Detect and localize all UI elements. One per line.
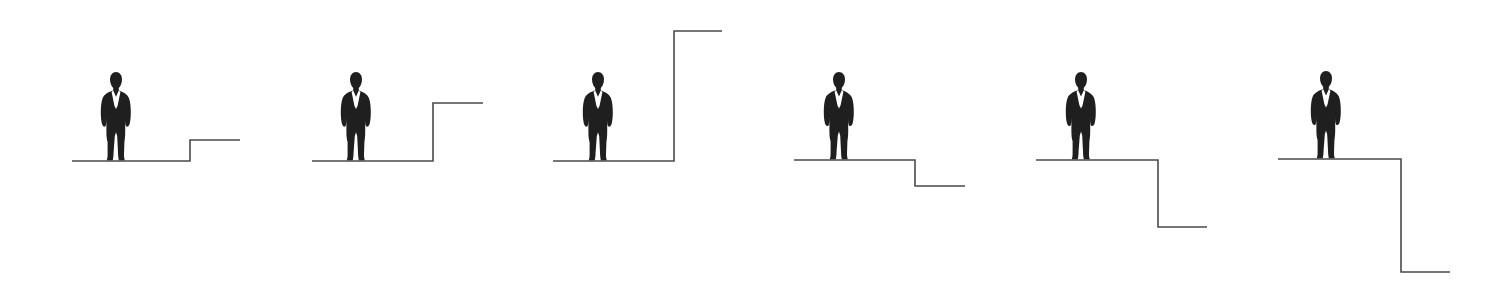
- businessman-figure: [824, 72, 854, 159]
- figure-silhouette: [101, 72, 131, 160]
- step-line-tall-step-up: [553, 31, 722, 161]
- panel-deep-step-down: [1278, 71, 1450, 272]
- panel-tall-step-up: [553, 31, 722, 161]
- businessman-figure: [1311, 71, 1341, 158]
- step-line-medium-step-down: [1036, 160, 1207, 227]
- steps-illustration: [0, 0, 1503, 281]
- figure-silhouette: [583, 72, 613, 160]
- illustration-canvas: [0, 0, 1503, 281]
- businessman-figure: [341, 72, 371, 160]
- step-line-small-step-down: [794, 160, 965, 186]
- panel-medium-step-up: [312, 72, 483, 161]
- figure-silhouette: [1066, 72, 1096, 159]
- step-line-medium-step-up: [312, 103, 483, 161]
- panel-small-step-down: [794, 72, 965, 186]
- panel-medium-step-down: [1036, 72, 1207, 227]
- panels-layer: [72, 31, 1450, 272]
- businessman-figure: [583, 72, 613, 160]
- step-line-small-step-up: [72, 140, 240, 161]
- step-line-deep-step-down: [1278, 159, 1450, 272]
- figure-silhouette: [824, 72, 854, 159]
- businessman-figure: [101, 72, 131, 160]
- figure-silhouette: [1311, 71, 1341, 158]
- figure-silhouette: [341, 72, 371, 160]
- panel-small-step-up: [72, 72, 240, 161]
- businessman-figure: [1066, 72, 1096, 159]
